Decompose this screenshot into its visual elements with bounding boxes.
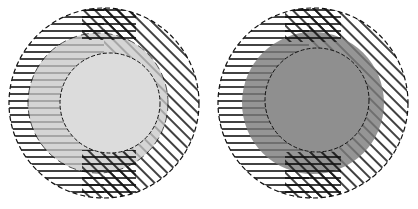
panel-left: [0, 0, 209, 209]
inner-disc-left: [60, 53, 160, 153]
panel-right: [209, 0, 418, 209]
inner-disc-right: [265, 48, 369, 152]
figure: [0, 0, 418, 209]
